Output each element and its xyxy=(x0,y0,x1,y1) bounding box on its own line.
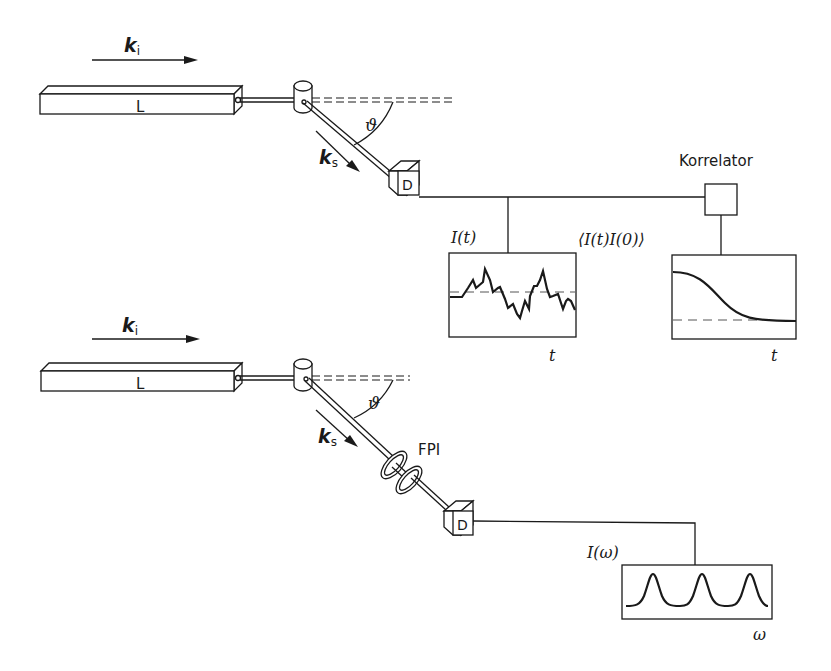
correlation-ylabel: ⟨I(t)I(0)⟩ xyxy=(578,230,645,249)
correlator xyxy=(705,184,737,215)
light-scattering-diagram: ki L ϑ ks xyxy=(0,0,831,671)
spectrum-ylabel: I(ω) xyxy=(586,543,619,562)
scattered-wavevector-label: ks xyxy=(318,425,337,449)
spectrum-plot xyxy=(622,565,772,619)
scattering-angle-label: ϑ xyxy=(368,393,380,413)
fpi-label: FPI xyxy=(418,441,440,459)
intensity-signal-xlabel: t xyxy=(549,346,556,365)
incident-wavevector-arrow xyxy=(92,335,200,343)
correlation-plot xyxy=(672,255,796,339)
sample-cell xyxy=(294,359,312,391)
intensity-signal-ylabel: I(t) xyxy=(450,228,476,247)
correlator-label: Korrelator xyxy=(679,152,754,170)
incident-wavevector-arrow xyxy=(92,56,198,64)
top-setup: ki L ϑ ks xyxy=(40,34,796,365)
incident-wavevector-label: ki xyxy=(122,314,138,338)
spectrum-xlabel: ω xyxy=(753,625,766,644)
correlation-xlabel: t xyxy=(771,346,778,365)
laser-label: L xyxy=(136,98,145,116)
laser-label: L xyxy=(136,375,145,393)
incident-wavevector-label: ki xyxy=(124,34,140,58)
scattering-angle-label: ϑ xyxy=(365,115,377,135)
detector-label: D xyxy=(402,177,413,193)
detector-label: D xyxy=(457,517,468,533)
bottom-setup: ki L ϑ ks xyxy=(41,314,772,644)
intensity-signal-plot xyxy=(449,253,576,337)
